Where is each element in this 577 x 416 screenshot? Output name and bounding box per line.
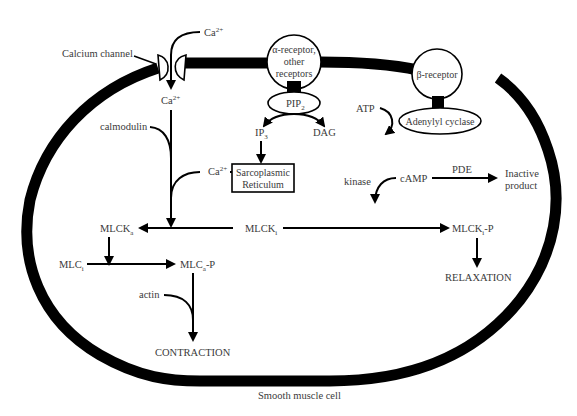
mlck-i-p-label: MLCKi-P <box>452 223 494 237</box>
actin-join <box>164 295 193 320</box>
adenylyl-cyclase: Adenylyl cyclase <box>399 108 481 134</box>
pip2-to-dag-arrow <box>294 114 324 126</box>
atp-to-camp-arrow <box>380 108 392 134</box>
ca-outside-label: Ca2+ <box>204 26 223 38</box>
mlc-i-label: MLCi <box>59 259 84 273</box>
pip2-to-ip3-arrow <box>264 114 294 126</box>
ca-sr-join <box>171 172 200 198</box>
sarcoplasmic-reticulum: Sarcoplasmic Reticulum <box>232 164 294 192</box>
pde-label: PDE <box>452 164 472 175</box>
ip3-label: IP3 <box>255 127 268 141</box>
svg-text:β-receptor: β-receptor <box>416 69 458 80</box>
calmodulin-join <box>150 127 171 158</box>
svg-text:α-receptor,: α-receptor, <box>272 44 315 55</box>
inactive-product-label-2: product <box>505 180 537 191</box>
mlck-i-label: MLCKi <box>245 223 277 237</box>
pip2-node: PIP2 <box>268 92 320 114</box>
figure-caption: Smooth muscle cell <box>258 390 341 401</box>
calcium-channel-pointer <box>134 56 156 64</box>
svg-text:other: other <box>284 56 305 67</box>
mlc-a-p-label: MLCa-P <box>180 259 215 273</box>
actin-label: actin <box>139 289 160 300</box>
svg-text:receptors: receptors <box>276 68 313 79</box>
ca-inside-label: Ca2+ <box>161 94 180 106</box>
svg-text:Reticulum: Reticulum <box>242 179 284 190</box>
svg-text:Adenylyl cyclase: Adenylyl cyclase <box>405 116 475 127</box>
ca-sr-label: Ca2+ <box>208 165 227 177</box>
alpha-receptor: α-receptor, other receptors <box>267 35 321 95</box>
contraction-label: CONTRACTION <box>155 347 231 358</box>
inactive-product-label-1: Inactive <box>505 168 539 179</box>
smooth-muscle-signaling-diagram: Calcium channel Ca2+ Ca2+ calmodulin Ca2… <box>0 0 577 416</box>
calmodulin-label: calmodulin <box>100 121 148 132</box>
kinase-label: kinase <box>344 176 371 187</box>
mlck-a-label: MLCKa <box>100 223 134 237</box>
atp-label: ATP <box>356 103 375 114</box>
camp-label: cAMP <box>400 173 428 184</box>
dag-label: DAG <box>313 127 336 138</box>
calcium-channel-label: Calcium channel <box>62 48 133 59</box>
relaxation-label: RELAXATION <box>445 272 512 283</box>
camp-kinase-arrow <box>375 178 396 202</box>
beta-receptor: β-receptor <box>412 49 462 109</box>
svg-text:Sarcoplasmic: Sarcoplasmic <box>236 167 290 178</box>
